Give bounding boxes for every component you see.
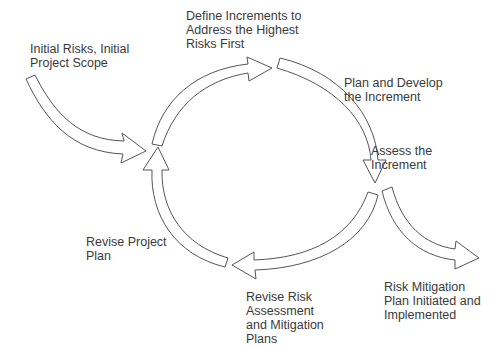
label-line: Address the Highest	[186, 23, 301, 37]
label-line: Revise Project	[86, 235, 167, 249]
define-arrow	[152, 57, 272, 146]
label-line: Plan and Develop	[344, 76, 443, 90]
label-line: Plan Initiated and	[384, 294, 481, 308]
label-line: Plan	[86, 249, 167, 263]
label-define: Define Increments to Address the Highest…	[186, 9, 301, 51]
label-line: Define Increments to	[186, 9, 301, 23]
entry-arrow	[26, 75, 146, 163]
label-line: Assessment	[246, 304, 324, 318]
label-line: Risks First	[186, 37, 301, 51]
exit-arrow	[382, 187, 479, 269]
revise-risk-arrow	[232, 192, 378, 279]
label-line: Project Scope	[30, 56, 129, 70]
label-line: Increment	[371, 158, 432, 172]
label-entry: Initial Risks, Initial Project Scope	[30, 42, 129, 70]
label-line: Initial Risks, Initial	[30, 42, 129, 56]
label-line: the Increment	[344, 90, 443, 104]
label-revise-risk: Revise Risk Assessment and Mitigation Pl…	[246, 290, 324, 346]
label-line: Plans	[246, 332, 324, 346]
label-exit: Risk Mitigation Plan Initiated and Imple…	[384, 280, 481, 322]
label-assess: Assess the Increment	[371, 144, 432, 172]
label-line: Revise Risk	[246, 290, 324, 304]
label-revise-plan: Revise Project Plan	[86, 235, 167, 263]
label-line: and Mitigation	[246, 318, 324, 332]
label-line: Risk Mitigation	[384, 280, 481, 294]
label-plan-develop: Plan and Develop the Increment	[344, 76, 443, 104]
label-line: Implemented	[384, 308, 481, 322]
label-line: Assess the	[371, 144, 432, 158]
